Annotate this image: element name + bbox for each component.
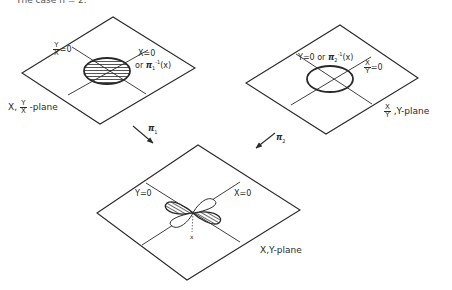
bottom-plane [97, 145, 300, 280]
right-ellipse [307, 66, 353, 92]
left-ellipse-hatched [84, 58, 130, 84]
lobe-upper-left-hatched [165, 202, 193, 214]
bottom-line1-label: Y=0 [135, 189, 152, 198]
arrow-pi2 [256, 133, 275, 148]
lobe-lower-left [170, 213, 193, 227]
point-x-label: x [190, 232, 194, 241]
arrow-pi2-label: π2 [276, 133, 286, 146]
left-plane-label: X, YX -plane [8, 100, 58, 115]
left-line1-label: YX=0 [53, 42, 72, 57]
right-line2-label: XY=0 [364, 60, 383, 75]
right-plane-label: XY ,Y-plane [384, 104, 429, 119]
point-x-leader [192, 213, 193, 232]
arrow-pi1-label: π1 [148, 124, 158, 137]
bottom-plane-label: X,Y-plane [260, 246, 302, 255]
lobe-upper-right [193, 199, 216, 213]
lobe-lower-right-hatched [193, 212, 221, 224]
bottom-line2-label: X=0 [234, 189, 251, 198]
left-line2-label: X=0 [138, 49, 155, 58]
left-line2-alt-label: or π1-1(x) [135, 58, 171, 73]
right-line1-label: Y=0 or π2-1(x) [298, 50, 353, 65]
